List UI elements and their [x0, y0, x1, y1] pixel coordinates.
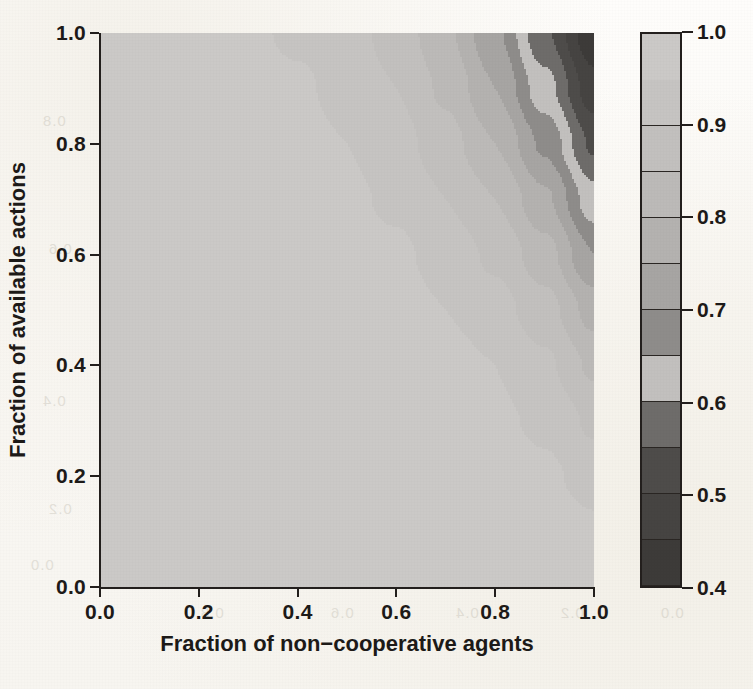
y-tick: [90, 143, 99, 145]
x-tick: [99, 588, 101, 597]
x-tick-label: 1.0: [579, 600, 609, 624]
y-axis-line: [99, 33, 101, 588]
colorbar-tick-label: 0.6: [697, 391, 726, 415]
colorbar-tick: [682, 124, 693, 126]
y-tick: [90, 475, 99, 477]
x-tick-label: 0.2: [184, 600, 214, 624]
x-tick: [198, 588, 200, 597]
colorbar-tick-label: 0.5: [697, 483, 726, 507]
colorbar-band: [642, 126, 680, 172]
bleed-through-text: 0.4: [455, 604, 479, 621]
x-tick-label: 0.8: [480, 600, 510, 624]
colorbar-tick-label: 0.9: [697, 113, 726, 137]
x-tick-label: 0.0: [85, 600, 115, 624]
bleed-through-text: 0.2: [48, 500, 72, 517]
x-axis-label: Fraction of non−cooperative agents: [160, 631, 533, 657]
y-tick: [90, 586, 99, 588]
y-tick-label: 0.6: [56, 243, 86, 267]
colorbar-band: [642, 356, 680, 402]
bleed-through-text: 0.4: [42, 392, 66, 409]
colorbar-band: [642, 264, 680, 310]
colorbar-band: [642, 540, 680, 586]
colorbar-tick: [682, 494, 693, 496]
colorbar-tick: [682, 216, 693, 218]
x-tick: [297, 588, 299, 597]
y-tick-label: 0.8: [56, 132, 86, 156]
colorbar-tick: [682, 587, 693, 589]
x-axis-line: [100, 587, 595, 589]
colorbar-band: [642, 402, 680, 448]
bleed-through-text: 0.0: [30, 556, 54, 573]
colorbar: [640, 32, 682, 588]
x-tick-label: 0.4: [283, 600, 313, 624]
colorbar-tick: [682, 31, 693, 33]
colorbar-band: [642, 218, 680, 264]
y-tick: [90, 364, 99, 366]
x-tick: [395, 588, 397, 597]
y-tick: [90, 32, 99, 34]
colorbar-tick-label: 0.7: [697, 298, 726, 322]
contour-bands: [100, 33, 594, 587]
colorbar-band: [642, 80, 680, 126]
colorbar-band: [642, 494, 680, 540]
y-tick-label: 0.4: [56, 353, 86, 377]
colorbar-band: [642, 448, 680, 494]
y-tick-label: 1.0: [56, 21, 86, 45]
colorbar-tick-label: 0.4: [697, 576, 726, 600]
figure-page: 0.8 0.6 0.4 0.2 0.0 0.8 0.6 0.4 0.2 0.0 …: [0, 0, 753, 689]
y-tick: [90, 254, 99, 256]
colorbar-band: [642, 310, 680, 356]
contour-plot-area: [100, 33, 594, 587]
bleed-through-text: 0.6: [330, 604, 354, 621]
colorbar-tick-label: 0.8: [697, 205, 726, 229]
bleed-through-text: 0.8: [42, 112, 66, 129]
colorbar-tick-label: 1.0: [697, 20, 726, 44]
x-tick: [494, 588, 496, 597]
colorbar-band: [642, 34, 680, 80]
bleed-through-text: 0.0: [660, 604, 684, 621]
colorbar-band: [642, 172, 680, 218]
x-tick-label: 0.6: [381, 600, 411, 624]
y-axis-label: Fraction of available actions: [5, 162, 31, 458]
y-tick-label: 0.2: [56, 464, 86, 488]
x-tick: [593, 588, 595, 597]
colorbar-tick: [682, 309, 693, 311]
colorbar-tick: [682, 402, 693, 404]
y-tick-label: 0.0: [56, 575, 86, 599]
